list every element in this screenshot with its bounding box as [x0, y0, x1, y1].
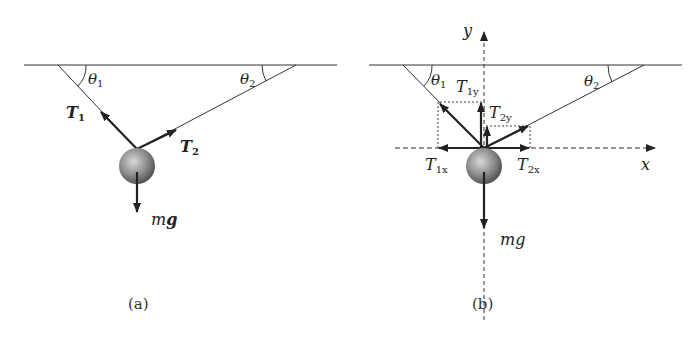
panel-b: θ1 θ2 T1y T2y T1x T2x mg x y (b) — [369, 21, 682, 320]
theta2-label: θ — [584, 72, 593, 90]
svg-text:T1x: T1x — [425, 155, 448, 175]
svg-text:T1y: T1y — [456, 77, 479, 97]
tension-2-arrow — [137, 130, 176, 149]
svg-text:mg: mg — [151, 210, 177, 229]
tension-2-arrow — [484, 126, 528, 148]
svg-text:T1: T1 — [66, 103, 85, 123]
svg-text:θ2: θ2 — [584, 72, 599, 91]
x-axis-label: x — [641, 155, 650, 174]
panel-a: θ1 θ2 T1 T2 mg (a) — [24, 65, 337, 313]
svg-text:T2y: T2y — [489, 103, 512, 123]
tension-1-arrow — [101, 112, 137, 149]
svg-text:T2x: T2x — [517, 155, 540, 175]
caption-a: (a) — [128, 295, 149, 313]
force-diagram: θ1 θ2 T1 T2 mg (a) θ1 θ2 T1y T2y T1x T2x… — [0, 0, 700, 345]
angle-arc-right — [262, 65, 266, 81]
theta1-label: θ — [88, 70, 97, 88]
svg-text:θ2: θ2 — [240, 70, 255, 89]
weight-label: mg — [500, 230, 525, 249]
y-axis-label: y — [462, 21, 473, 40]
svg-text:θ1: θ1 — [88, 70, 103, 89]
angle-arc-right — [608, 65, 612, 82]
svg-text:θ1: θ1 — [431, 71, 446, 90]
theta1-label: θ — [431, 71, 440, 89]
caption-b: (b) — [472, 295, 493, 313]
tension-1-arrow — [440, 104, 484, 148]
weight-label: m — [151, 210, 166, 229]
angle-arc-left — [78, 65, 86, 86]
theta2-label: θ — [240, 70, 249, 88]
svg-text:T2: T2 — [180, 137, 199, 157]
